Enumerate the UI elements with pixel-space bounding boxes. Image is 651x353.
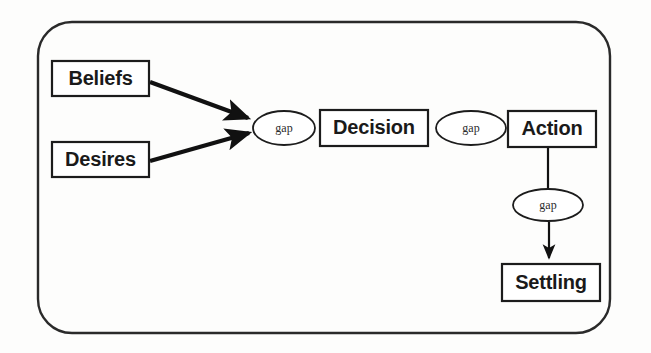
node-settling-label: Settling <box>515 271 587 293</box>
node-desires[interactable]: Desires <box>52 142 149 177</box>
node-action-label: Action <box>521 117 582 139</box>
gap-label-3: gap <box>539 198 556 212</box>
node-beliefs-label: Beliefs <box>68 67 132 89</box>
process-diagram: Beliefs Desires gap Decision gap Action <box>0 0 651 353</box>
node-beliefs[interactable]: Beliefs <box>52 61 149 96</box>
gap-node-1[interactable]: gap <box>253 111 315 145</box>
node-desires-label: Desires <box>65 148 136 170</box>
connector-beliefs-to-gap <box>150 82 248 118</box>
gap-label-2: gap <box>462 121 479 135</box>
gap-label-1: gap <box>275 121 292 135</box>
node-decision[interactable]: Decision <box>320 110 428 146</box>
node-action[interactable]: Action <box>508 111 596 147</box>
connector-desires-to-gap <box>150 133 249 161</box>
gap-node-3[interactable]: gap <box>513 189 583 221</box>
node-settling[interactable]: Settling <box>502 264 600 301</box>
node-decision-label: Decision <box>333 116 415 138</box>
gap-node-2[interactable]: gap <box>436 111 506 145</box>
diagram-canvas: Beliefs Desires gap Decision gap Action <box>0 0 651 353</box>
